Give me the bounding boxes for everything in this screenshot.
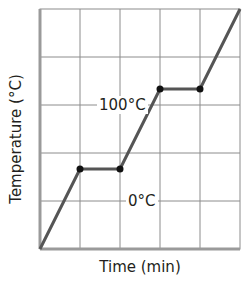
heating-curve-chart [0, 0, 244, 290]
data-point-marker [117, 166, 124, 173]
y-axis-label: Temperature (°C) [7, 59, 25, 219]
melting-point-label: 0°C [126, 192, 158, 210]
heating-curve-line [40, 9, 240, 249]
boiling-point-label: 100°C [97, 96, 148, 114]
data-point-marker [77, 166, 84, 173]
data-point-marker [157, 86, 164, 93]
x-axis-label: Time (min) [40, 258, 240, 276]
data-point-marker [197, 86, 204, 93]
